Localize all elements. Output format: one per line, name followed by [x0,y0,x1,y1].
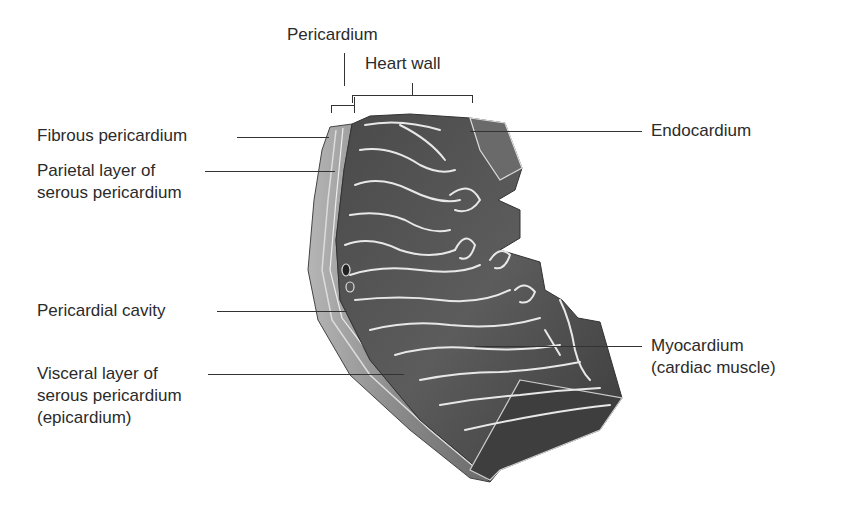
pericardium-bracket-bar [331,105,355,106]
leader-endocardium [470,131,642,132]
leader-myocardium [475,346,642,347]
heart-wall-bracket-right [472,95,473,103]
label-myocardium: Myocardium (cardiac muscle) [651,335,776,379]
leader-visceral-layer [208,374,404,375]
heart-wall-bracket-bar [352,95,473,96]
label-endocardium: Endocardium [651,120,751,142]
leader-parietal-layer [205,171,335,172]
leader-fibrous-pericardium [237,137,329,138]
label-heart-wall: Heart wall [365,53,441,75]
pericardium-bracket-left [331,105,332,113]
heart-wall-bracket-left [352,95,353,103]
heart-wall-bracket-stem [412,83,413,95]
myocardium-mass [336,114,622,482]
pericardium-bracket-right [354,97,355,113]
pericardium-bracket-stem [344,53,345,86]
leader-pericardial-cavity [217,311,347,312]
label-parietal-layer: Parietal layer of serous pericardium [37,160,182,204]
heart-wall-illustration [0,0,843,511]
label-pericardium: Pericardium [287,24,378,46]
label-visceral-layer: Visceral layer of serous pericardium (ep… [37,363,182,429]
label-fibrous-pericardium: Fibrous pericardium [37,125,187,147]
label-pericardial-cavity: Pericardial cavity [37,300,166,322]
